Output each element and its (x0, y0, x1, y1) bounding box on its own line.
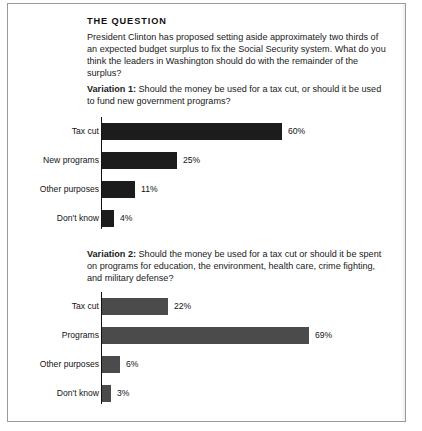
chart2-bar-row: Don't know 3% (8, 381, 407, 408)
chart1-value-label: 60% (288, 126, 305, 136)
variation-1-prompt: Variation 1: Should the money be used fo… (87, 83, 390, 107)
chart2-bar (102, 327, 309, 344)
question-text-block: THE QUESTION President Clinton has propo… (87, 16, 390, 79)
chart2-category-label: Other purposes (0, 359, 99, 369)
chart1-value-label: 11% (141, 184, 158, 194)
chart1-bar (102, 210, 114, 227)
bar-chart-variation-2: Tax cut 22% Programs 69% Other purposes … (8, 292, 407, 404)
chart1-bar-row: New programs 25% (8, 148, 407, 175)
chart2-bar (102, 385, 111, 402)
chart2-bar (102, 298, 168, 315)
variation-2-prompt: Variation 2: Should the money be used fo… (87, 248, 390, 284)
variation-2-label: Variation 2: (87, 249, 136, 259)
bar-chart-variation-1: Tax cut 60% New programs 25% Other purpo… (8, 117, 407, 229)
chart2-bar-row: Programs 69% (8, 323, 407, 350)
section-heading: THE QUESTION (87, 16, 390, 27)
chart1-bar (102, 181, 135, 198)
chart1-bar-row: Don't know 4% (8, 206, 407, 233)
question-body-paragraph: President Clinton has proposed setting a… (87, 31, 390, 79)
chart2-category-label: Programs (0, 330, 99, 340)
chart1-value-label: 4% (120, 213, 132, 223)
chart2-value-label: 3% (117, 388, 129, 398)
chart1-bar (102, 123, 282, 140)
chart2-value-label: 6% (126, 359, 138, 369)
chart1-bar-row: Other purposes 11% (8, 177, 407, 204)
chart2-category-label: Don't know (0, 388, 99, 398)
chart2-bar-row: Other purposes 6% (8, 352, 407, 379)
chart1-bar (102, 152, 177, 169)
chart2-bar-row: Tax cut 22% (8, 294, 407, 321)
chart2-category-label: Tax cut (0, 301, 99, 311)
chart1-value-label: 25% (183, 155, 200, 165)
document-page-frame: THE QUESTION President Clinton has propo… (7, 3, 406, 422)
chart1-category-label: Tax cut (0, 126, 99, 136)
chart1-category-label: New programs (0, 155, 99, 165)
page-content: THE QUESTION President Clinton has propo… (8, 4, 407, 423)
chart1-category-label: Other purposes (0, 184, 99, 194)
variation-1-label: Variation 1: (87, 84, 136, 94)
chart1-category-label: Don't know (0, 213, 99, 223)
chart2-value-label: 69% (315, 330, 332, 340)
chart1-bar-row: Tax cut 60% (8, 119, 407, 146)
chart2-value-label: 22% (174, 301, 191, 311)
chart2-bar (102, 356, 120, 373)
